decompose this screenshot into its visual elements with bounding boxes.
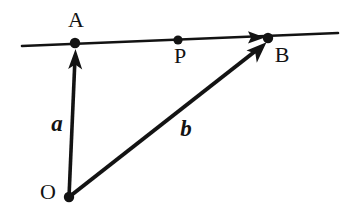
vector-label-b: b (180, 116, 192, 141)
vector-label-a: a (51, 111, 63, 136)
point-label-A: A (68, 7, 84, 32)
vector-diagram-figure: A P B O a b (0, 0, 353, 216)
vector-diagram-canvas: A P B O a b (0, 0, 353, 216)
vector-b-shaft (69, 49, 258, 197)
point-dot-B (263, 33, 273, 43)
point-dot-O (64, 192, 74, 202)
vector-a-shaft (69, 58, 75, 197)
vector-b-arrowhead-icon (247, 42, 267, 63)
point-label-O: O (40, 179, 56, 204)
point-label-P: P (174, 43, 186, 68)
point-dot-A (70, 38, 80, 48)
point-label-B: B (275, 42, 290, 67)
